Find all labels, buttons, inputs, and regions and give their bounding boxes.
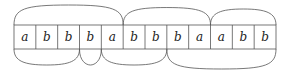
cell-letter-b: b	[65, 30, 73, 44]
top-arc	[123, 8, 210, 25]
cell-letter-a: a	[218, 30, 225, 44]
bottom-arc	[167, 49, 276, 69]
top-arc	[211, 9, 277, 25]
cell-letter-a: a	[109, 30, 116, 44]
cell-letter-b: b	[152, 30, 160, 44]
bottom-arc	[101, 49, 166, 65]
cell-letter-b: b	[130, 30, 138, 44]
bottom-arc	[80, 49, 102, 65]
cell-letter-b: b	[174, 30, 182, 44]
cell-letter-a: a	[21, 30, 28, 44]
cell-letter-a: a	[196, 30, 203, 44]
cell-letter-b: b	[261, 30, 269, 44]
cell-letter-b: b	[239, 30, 247, 44]
top-arc	[14, 5, 123, 25]
cell-table: abbbabbbaabb	[14, 25, 276, 49]
cell-letter-b: b	[87, 30, 95, 44]
cell-letter-b: b	[43, 30, 51, 44]
word-diagram: abbbabbbaabb	[0, 0, 292, 72]
bottom-arc	[14, 49, 80, 65]
